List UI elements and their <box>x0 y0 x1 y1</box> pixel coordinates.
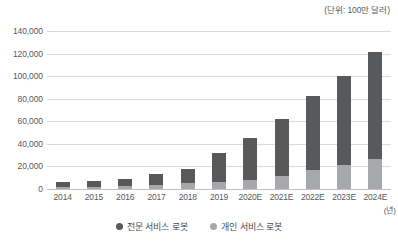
bar-segment <box>306 96 320 169</box>
bar-segment <box>243 180 257 189</box>
bar-group <box>118 179 132 189</box>
chart-legend: 전문 서비스 로봇개인 서비스 로봇 <box>0 220 398 233</box>
axis-baseline <box>47 189 391 190</box>
bar-group <box>212 153 226 189</box>
bar-segment <box>212 153 226 182</box>
bar-group <box>56 182 70 189</box>
y-axis-tick-label: 60,000 <box>18 116 43 126</box>
bar-segment <box>368 52 382 158</box>
plot-area <box>47 31 391 189</box>
y-axis-tick-label: 80,000 <box>18 94 43 104</box>
bar-segment <box>181 169 195 184</box>
circle-marker-icon <box>210 223 217 230</box>
y-axis-tick-label: 0 <box>38 184 43 194</box>
x-axis-tick-label: 2020E <box>235 192 266 202</box>
y-axis-tick-label: 40,000 <box>18 139 43 149</box>
circle-marker-icon <box>116 223 123 230</box>
bar-segment <box>243 138 257 180</box>
bar-segment <box>149 185 163 189</box>
bar-segment <box>212 182 226 189</box>
bar-segment <box>181 183 195 189</box>
bar-segment <box>118 186 132 189</box>
x-axis-tick-label: 2023E <box>328 192 359 202</box>
bar-group <box>306 96 320 189</box>
y-axis-tick-label: 100,000 <box>13 71 43 81</box>
bar-group <box>87 181 101 189</box>
bar-group <box>243 138 257 189</box>
legend-label: 개인 서비스 로봇 <box>221 220 282 233</box>
bar-segment <box>306 170 320 189</box>
x-axis-unit-label: (년) <box>384 204 396 215</box>
bar-segment <box>337 76 351 165</box>
y-axis-tick-label: 140,000 <box>13 26 43 36</box>
x-axis-tick-label: 2022E <box>297 192 328 202</box>
bar-segment <box>275 119 289 176</box>
x-axis-labels: 2014201520162017201820192020E2021E2022E2… <box>47 192 391 208</box>
bar-segment <box>368 159 382 189</box>
bar-group <box>181 169 195 189</box>
x-axis-tick-label: 2024E <box>360 192 391 202</box>
legend-item: 개인 서비스 로봇 <box>210 220 282 233</box>
x-axis-tick-label: 2018 <box>172 192 203 202</box>
x-axis-tick-label: 2015 <box>78 192 109 202</box>
bar-segment <box>337 165 351 189</box>
x-axis-tick-label: 2016 <box>110 192 141 202</box>
bar-series-container <box>47 31 391 189</box>
legend-item: 전문 서비스 로봇 <box>116 220 188 233</box>
unit-annotation: (단위: 100만 달러) <box>324 3 390 15</box>
x-axis-tick-label: 2014 <box>47 192 78 202</box>
bar-group <box>275 119 289 189</box>
bar-group <box>149 174 163 189</box>
y-axis-tick-label: 20,000 <box>18 161 43 171</box>
x-axis-tick-label: 2017 <box>141 192 172 202</box>
bar-segment <box>56 187 70 189</box>
bar-segment <box>275 176 289 189</box>
bar-group <box>368 52 382 189</box>
bar-group <box>337 76 351 189</box>
x-axis-tick-label: 2021E <box>266 192 297 202</box>
y-axis-tick-label: 120,000 <box>13 49 43 59</box>
legend-label: 전문 서비스 로봇 <box>127 220 188 233</box>
service-robot-market-chart: (단위: 100만 달러) 020,00040,00060,00080,0001… <box>0 0 398 241</box>
bar-segment <box>87 187 101 189</box>
x-axis-tick-label: 2019 <box>203 192 234 202</box>
y-axis-labels: 020,00040,00060,00080,000100,000120,0001… <box>0 31 43 189</box>
bar-segment <box>149 174 163 184</box>
bar-segment <box>118 179 132 186</box>
